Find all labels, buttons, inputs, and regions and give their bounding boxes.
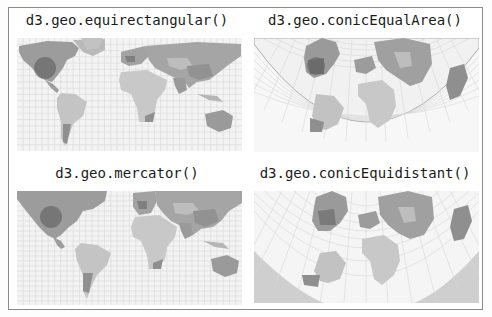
panel-title: d3.geo.equirectangular() (8, 12, 246, 28)
panel-title: d3.geo.conicEqualArea() (246, 12, 484, 28)
map-conic-equal-area (254, 38, 479, 152)
highlight-circle (34, 57, 56, 79)
map-mercator (17, 191, 242, 305)
map-equirectangular (17, 38, 242, 151)
map-conic-equidistant (254, 191, 479, 303)
world-map-graphic (17, 38, 242, 151)
panel-title: d3.geo.mercator() (8, 165, 246, 181)
panel-title: d3.geo.conicEquidistant() (246, 165, 484, 181)
